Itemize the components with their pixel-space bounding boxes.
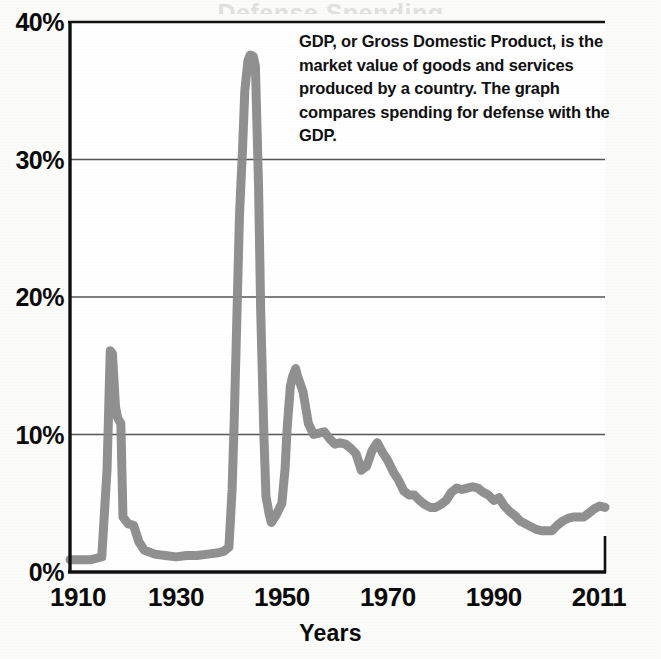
x-tick-label-1910: 1910 — [50, 582, 106, 613]
chart-figure: Defense Spending 0%10%20%30%40% 19101930… — [0, 0, 661, 659]
x-tick-label-2011: 2011 — [572, 582, 626, 613]
y-tick-label-10: 10% — [2, 420, 64, 449]
y-tick-label-40: 40% — [2, 8, 64, 37]
x-tick-label-1970: 1970 — [360, 582, 416, 613]
y-tick-label-20: 20% — [2, 283, 64, 312]
gdp-annotation-text: GDP, or Gross Domestic Product, is the m… — [299, 30, 619, 148]
y-axis-tick-labels: 0%10%20%30%40% — [0, 0, 64, 659]
x-axis-tick-labels: 191019301950197019902011 — [0, 582, 661, 616]
x-tick-label-1990: 1990 — [466, 582, 522, 613]
x-tick-label-1950: 1950 — [254, 582, 310, 613]
x-tick-label-1930: 1930 — [148, 582, 204, 613]
x-axis-title: Years — [0, 620, 661, 647]
y-tick-label-30: 30% — [2, 145, 64, 174]
